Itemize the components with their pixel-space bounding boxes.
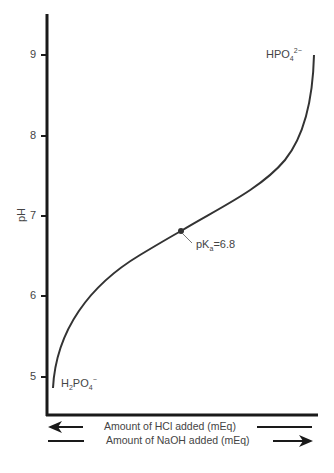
titration-chart bbox=[0, 0, 334, 473]
naoh-axis-label: Amount of NaOH added (mEq) bbox=[106, 434, 250, 446]
y-tick-7: 7 bbox=[22, 209, 36, 221]
titration-curve bbox=[53, 55, 314, 388]
start-species-label: H2PO4− bbox=[61, 376, 97, 391]
pka-point bbox=[178, 228, 184, 234]
pka-leader-line bbox=[182, 233, 192, 243]
y-tick-6: 6 bbox=[22, 289, 36, 301]
pka-label: pKa=6.8 bbox=[196, 238, 235, 252]
end-species-label: HPO42− bbox=[266, 47, 302, 62]
naoh-arrow bbox=[273, 435, 313, 447]
y-tick-5: 5 bbox=[22, 370, 36, 382]
y-tick-9: 9 bbox=[22, 48, 36, 60]
hcl-arrow bbox=[48, 421, 83, 433]
hcl-axis-label: Amount of HCl added (mEq) bbox=[104, 420, 236, 432]
y-tick-8: 8 bbox=[22, 129, 36, 141]
